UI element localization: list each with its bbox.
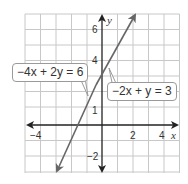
x-tick-neg4: −4: [30, 130, 42, 141]
x-tick-4: 4: [159, 130, 165, 141]
y-tick-4: 4: [92, 55, 98, 66]
y-axis-label: y: [106, 14, 112, 26]
y-tick-neg2: −2: [87, 151, 99, 162]
y-tick-6: 6: [92, 24, 98, 35]
equation-callout-right: −2x + y = 3: [107, 82, 177, 101]
y-tick-1: 1: [92, 105, 98, 116]
equation-callout-left: −4x + 2y = 6: [12, 63, 88, 82]
x-axis-label: x: [170, 129, 176, 141]
x-tick-2: 2: [130, 130, 136, 141]
